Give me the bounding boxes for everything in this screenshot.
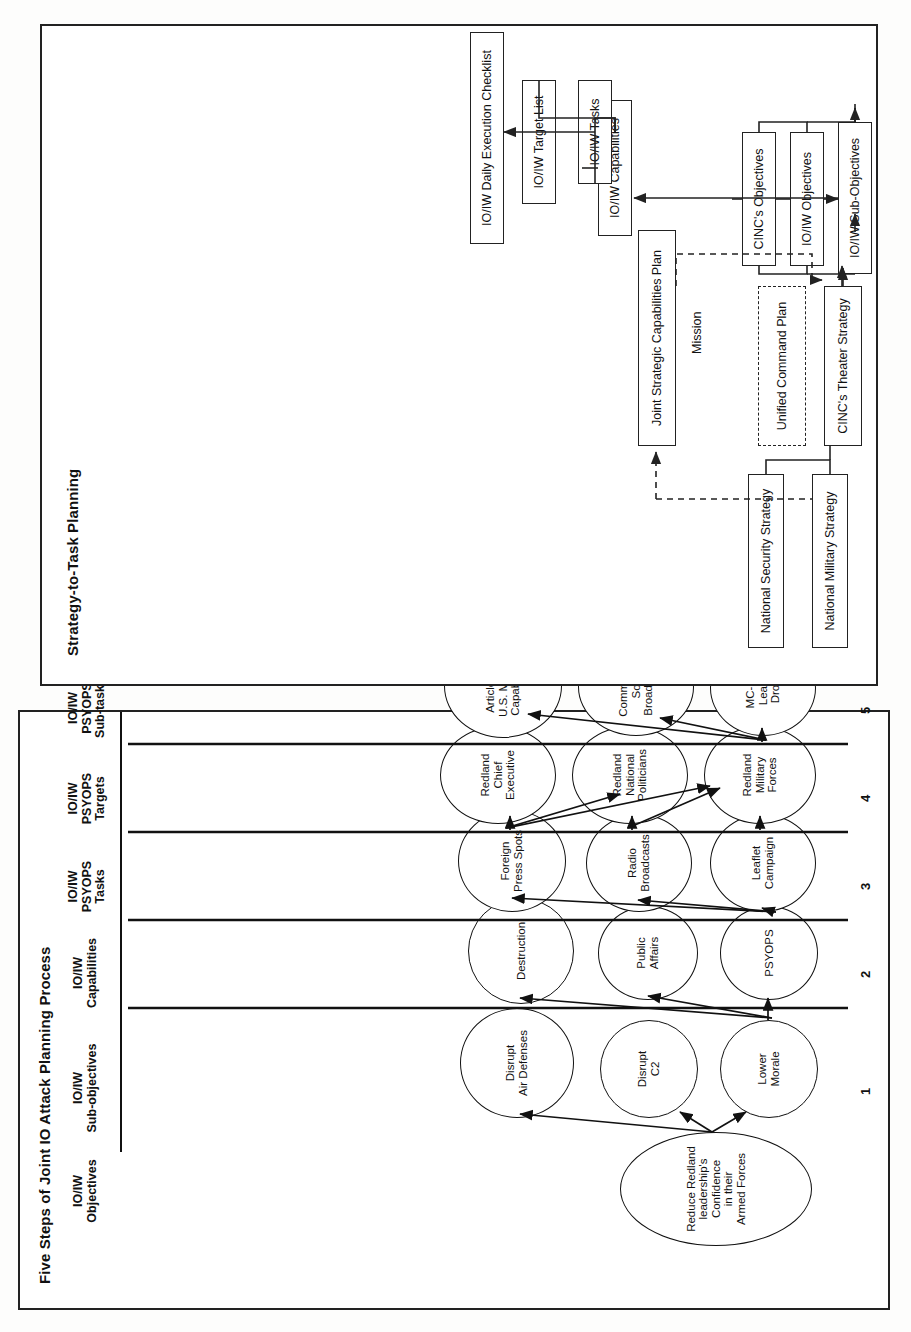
box-cincs-objectives[interactable]: CINC's Objectives xyxy=(742,132,776,266)
box-io-iw-sub-objectives[interactable]: IO/IW Sub-Objectives xyxy=(838,122,872,274)
ellipse-task-foreign-press-spots: Foreign Press Spots xyxy=(458,810,566,912)
column-header-io-capabilities: IO/IW Capabilities xyxy=(72,918,99,1028)
ellipse-task-radio-broadcasts: Radio Broadcasts xyxy=(586,814,692,912)
box-joint-strategic-capabilities-plan[interactable]: Joint Strategic Capabilities Plan xyxy=(638,230,676,446)
five-steps-panel: Five Steps of Joint IO Attack Planning P… xyxy=(18,710,890,1310)
column-header-io-sub-objectives: IO/IW Sub-objectives xyxy=(72,1028,99,1148)
box-io-iw-target-list[interactable]: IO/IW Target List xyxy=(522,80,556,204)
box-io-iw-daily-execution-checklist[interactable]: IO/IW Daily Execution Checklist xyxy=(470,32,504,244)
ellipse-sub-objective-lower-morale: Lower Morale xyxy=(720,1020,818,1118)
strategy-to-task-panel-title: Strategy-to-Task Planning xyxy=(64,469,81,656)
ellipse-target-redland-national-politicians: Redland National Politicians xyxy=(572,726,688,824)
box-national-security-strategy[interactable]: National Security Strategy xyxy=(748,474,784,648)
box-unified-command-plan[interactable]: Unified Command Plan xyxy=(758,286,806,446)
column-header-psyops-targets: IO/IW PSYOPS Targets xyxy=(67,751,108,846)
step-number-3: 3 xyxy=(858,883,873,890)
ellipse-capability-psyops: PSYOPS xyxy=(720,906,818,1000)
ellipse-objective: Reduce Redland leadership's Confidence i… xyxy=(620,1132,812,1246)
edge-label-mission: Mission xyxy=(690,312,704,354)
step-number-5: 5 xyxy=(858,707,873,714)
step-number-1: 1 xyxy=(858,1088,873,1095)
ellipse-capability-public-affairs: Public Affairs xyxy=(598,906,698,1000)
box-cincs-theater-strategy[interactable]: CINC's Theater Strategy xyxy=(824,286,862,446)
five-steps-panel-title: Five Steps of Joint IO Attack Planning P… xyxy=(36,947,53,1284)
box-io-iw-tasks[interactable]: IO/IW Tasks xyxy=(578,80,612,184)
ellipse-sub-objective-disrupt-air-defenses: Disrupt Air Defenses xyxy=(460,1008,574,1118)
step-number-4: 4 xyxy=(858,795,873,802)
ellipse-capability-destruction: Destruction xyxy=(468,898,574,1004)
group-separator-1 xyxy=(120,712,122,1152)
ellipse-sub-objective-disrupt-c2: Disrupt C2 xyxy=(600,1020,698,1118)
step-number-2: 2 xyxy=(858,971,873,978)
ellipse-target-redland-military-forces: Redland Military Forces xyxy=(704,726,816,824)
ellipse-target-redland-chief-executive: Redland Chief Executive xyxy=(440,726,556,824)
box-national-military-strategy[interactable]: National Military Strategy xyxy=(812,474,848,648)
ellipse-task-leaflet-campaign: Leaflet Campaign xyxy=(710,814,816,912)
strategy-to-task-panel: Strategy-to-Task Planning National Secur… xyxy=(40,24,878,686)
column-header-psyops-tasks: IO/IW PSYOPS Tasks xyxy=(67,839,108,934)
column-header-io-objectives: IO/IW Objectives xyxy=(72,1136,99,1246)
scanned-page: Five Steps of Joint IO Attack Planning P… xyxy=(0,0,911,1332)
box-io-iw-objectives[interactable]: IO/IW Objectives xyxy=(790,132,824,266)
